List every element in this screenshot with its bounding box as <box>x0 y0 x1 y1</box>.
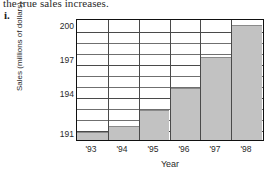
y-tick-label: 197 <box>40 55 74 65</box>
bar-top-edge <box>139 110 170 111</box>
bar-top-edge <box>170 88 201 89</box>
bar-chart-figure: Sales (millions of dollars) 200 197 194 … <box>0 0 266 176</box>
bar-top-edge <box>200 57 231 58</box>
gridline-vertical <box>231 20 232 140</box>
bar <box>200 57 231 140</box>
x-tick-label: '98 <box>240 144 251 154</box>
gridline-vertical <box>170 20 171 140</box>
bar <box>170 88 201 140</box>
x-axis-label: Year <box>76 159 264 169</box>
gridline-vertical <box>139 20 140 140</box>
bar <box>139 110 170 140</box>
bar-top-edge <box>231 25 262 26</box>
y-tick-label: 191 <box>40 129 74 139</box>
bar <box>231 25 262 140</box>
x-tick-label: '93 <box>85 144 96 154</box>
x-tick-label: '94 <box>116 144 127 154</box>
y-tick-label: 200 <box>40 21 74 31</box>
bar-top-edge <box>77 132 108 133</box>
bar <box>77 132 108 140</box>
x-tick-label: '97 <box>209 144 220 154</box>
y-axis-label: Sales (millions of dollars) <box>15 0 24 102</box>
gridline-vertical <box>108 20 109 140</box>
plot-area <box>76 19 264 141</box>
gridline-vertical <box>200 20 201 140</box>
x-tick-label: '95 <box>147 144 158 154</box>
y-axis-tick-labels: 200 197 194 191 <box>38 19 74 141</box>
bar <box>108 126 139 140</box>
bar-top-edge <box>108 126 139 127</box>
x-tick-label: '96 <box>178 144 189 154</box>
y-tick-label: 194 <box>40 89 74 99</box>
